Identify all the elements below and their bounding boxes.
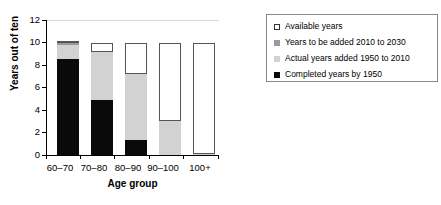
x-tick-mark-5 (218, 155, 219, 159)
bar-60-70 (57, 20, 79, 155)
x-tick-label-90-100: 90–100 (143, 163, 183, 173)
x-tick-mark-0 (46, 155, 47, 159)
segment-completed-years-by-1950 (125, 140, 147, 155)
segment-actual-years-added-1950-to-2010 (125, 74, 147, 140)
segment-completed-years-by-1950 (91, 100, 113, 155)
y-tick-label-8: 8 (2, 60, 40, 70)
bar-80-90 (125, 20, 147, 155)
bar-100-plus (193, 20, 215, 155)
legend-item-available-years: Available years (274, 22, 343, 31)
y-tick-label-4: 4 (2, 105, 40, 115)
legend-item-completed-years: Completed years by 1950 (274, 70, 382, 79)
bar-90-100 (159, 20, 181, 155)
segment-available-years (159, 43, 181, 122)
y-tick-label-0: 0 (2, 150, 40, 160)
x-tick-label-70-80: 70–80 (77, 163, 111, 173)
x-tick-label-100-plus: 100+ (182, 163, 218, 173)
y-tick-label-12: 12 (2, 15, 40, 25)
x-axis-line (46, 155, 219, 156)
x-tick-mark-2 (114, 155, 115, 159)
segment-completed-years-by-1950 (57, 59, 79, 155)
segment-actual-years-added-1950-to-2010 (159, 121, 181, 155)
x-tick-mark-4 (183, 155, 184, 159)
segment-available-years (57, 41, 79, 43)
chart-legend: Available years Years to be added 2010 t… (266, 14, 438, 82)
segment-actual-years-added-1950-to-2010 (193, 154, 215, 155)
legend-swatch-light-gray-icon (274, 56, 280, 62)
legend-label-years-to-be-added: Years to be added 2010 to 2030 (285, 38, 406, 47)
legend-label-completed-years: Completed years by 1950 (285, 70, 382, 79)
segment-years-to-be-added-2010-to-2030 (57, 43, 79, 45)
x-tick-label-80-90: 80–90 (111, 163, 145, 173)
chart-figure: Years out of ten 0 2 4 6 8 10 12 (0, 0, 441, 205)
segment-actual-years-added-1950-to-2010 (57, 45, 79, 60)
segment-available-years (125, 43, 147, 75)
segment-available-years (193, 43, 215, 154)
legend-item-years-to-be-added: Years to be added 2010 to 2030 (274, 38, 406, 47)
plot-area (46, 20, 218, 155)
x-axis-title: Age group (46, 178, 219, 189)
y-tick-label-6: 6 (2, 82, 40, 92)
x-tick-mark-1 (80, 155, 81, 159)
legend-swatch-black-icon (274, 72, 280, 78)
segment-actual-years-added-1950-to-2010 (91, 52, 113, 100)
bar-70-80 (91, 20, 113, 155)
legend-label-available-years: Available years (285, 22, 343, 31)
legend-item-actual-years-added: Actual years added 1950 to 2010 (274, 54, 410, 63)
legend-label-actual-years-added: Actual years added 1950 to 2010 (285, 54, 410, 63)
x-tick-label-60-70: 60–70 (43, 163, 77, 173)
x-tick-mark-3 (149, 155, 150, 159)
y-tick-label-2: 2 (2, 127, 40, 137)
legend-swatch-mid-gray-icon (274, 40, 280, 46)
legend-swatch-white-outline-icon (274, 24, 280, 30)
y-tick-label-10: 10 (2, 37, 40, 47)
segment-available-years (91, 43, 113, 52)
